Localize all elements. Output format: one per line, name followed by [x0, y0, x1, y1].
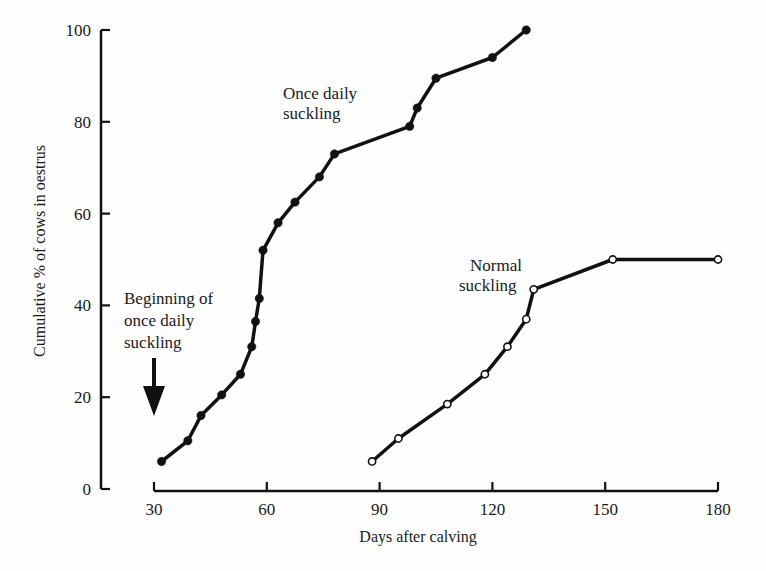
open-circle-marker [714, 256, 721, 263]
label-normal-line2: suckling [459, 276, 517, 295]
x-tick-label: 30 [146, 500, 163, 519]
filled-circle-marker [315, 173, 323, 181]
open-circle-marker [481, 371, 488, 378]
filled-circle-marker [248, 343, 256, 351]
filled-circle-marker [413, 104, 421, 112]
y-tick-label: 80 [74, 113, 91, 132]
filled-circle-marker [157, 457, 165, 465]
open-circle-marker [504, 343, 511, 350]
open-circle-marker [609, 256, 616, 263]
filled-circle-marker [432, 74, 440, 82]
series-normal-suckling [368, 256, 721, 465]
filled-circle-marker [197, 411, 205, 419]
annotation-line3: suckling [124, 333, 182, 352]
x-tick-label: 120 [480, 500, 506, 519]
filled-circle-marker [259, 246, 267, 254]
x-tick-label: 90 [371, 500, 388, 519]
y-tick-label: 100 [66, 21, 92, 40]
chart: 020406080100306090120150180 Cumulative %… [0, 0, 766, 571]
annotation-line2: once daily [124, 311, 195, 330]
filled-circle-marker [330, 150, 338, 158]
series-line [372, 260, 718, 462]
filled-circle-marker [217, 391, 225, 399]
open-circle-marker [368, 458, 375, 465]
open-circle-marker [523, 316, 530, 323]
y-tick-label: 0 [83, 480, 92, 499]
filled-circle-marker [274, 219, 282, 227]
open-circle-marker [395, 435, 402, 442]
filled-circle-marker [405, 122, 413, 130]
filled-circle-marker [522, 26, 530, 34]
open-circle-marker [530, 286, 537, 293]
axes: 020406080100306090120150180 [66, 21, 731, 519]
filled-circle-marker [236, 370, 244, 378]
y-axis-title: Cumulative % of cows in oestrus [31, 145, 48, 357]
x-tick-label: 60 [258, 500, 275, 519]
label-once-daily-line2: suckling [283, 104, 341, 123]
y-tick-label: 40 [74, 296, 91, 315]
y-tick-label: 60 [74, 205, 91, 224]
label-normal-line1: Normal [470, 256, 522, 275]
filled-circle-marker [251, 317, 259, 325]
y-tick-label: 20 [74, 388, 91, 407]
x-tick-label: 180 [705, 500, 731, 519]
x-tick-label: 150 [592, 500, 618, 519]
annotation-line1: Beginning of [124, 289, 214, 308]
chart-canvas: 020406080100306090120150180 Cumulative %… [0, 0, 766, 571]
open-circle-marker [444, 400, 451, 407]
filled-circle-marker [291, 198, 299, 206]
filled-circle-marker [255, 294, 263, 302]
x-axis-title: Days after calving [359, 528, 476, 546]
label-once-daily-line1: Once daily [283, 84, 358, 103]
filled-circle-marker [488, 53, 496, 61]
filled-circle-marker [184, 437, 192, 445]
down-arrow-icon [143, 358, 165, 416]
